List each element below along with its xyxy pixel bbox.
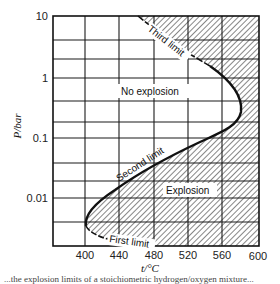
explosion-label: Explosion	[166, 185, 209, 196]
x-tick-520: 520	[179, 249, 197, 261]
x-tick-400: 400	[76, 249, 94, 261]
x-tick-560: 560	[213, 249, 231, 261]
y-tick-0-01: 0.01	[27, 192, 48, 204]
y-tick-10: 10	[36, 10, 48, 22]
x-tick-440: 440	[110, 249, 128, 261]
y-tick-0-1: 0.1	[33, 132, 48, 144]
no-explosion-label: No explosion	[121, 86, 179, 97]
x-axis-title: t/°C	[141, 262, 160, 274]
y-axis-title: P/bar	[11, 113, 23, 140]
figure-caption: ...the explosion limits of a stoichiomet…	[4, 274, 254, 284]
x-tick-600: 600	[249, 250, 267, 262]
x-tick-480: 480	[145, 249, 163, 261]
y-tick-1: 1	[42, 72, 48, 84]
